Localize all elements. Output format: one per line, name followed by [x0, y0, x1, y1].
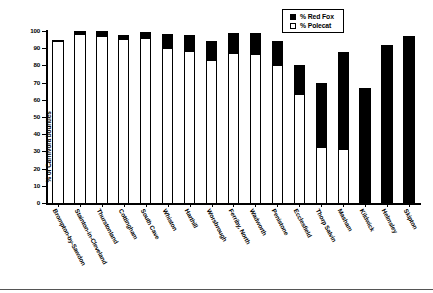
x-axis-label: Penistone: [271, 208, 290, 236]
legend-item-polecat: % Polecat: [290, 21, 334, 30]
bar-column[interactable]: [140, 32, 151, 203]
x-axis-label: Whiston: [161, 208, 178, 232]
x-axis-label: Ecclesfield: [292, 208, 313, 239]
bar-segment-polecat[interactable]: [74, 34, 85, 203]
y-tick-mark: [42, 83, 46, 84]
bar-segment-polecat[interactable]: [140, 38, 151, 203]
x-axis-labels: Brompton-by-SawdonStainton-in-ClevelandT…: [47, 208, 420, 288]
bar-column[interactable]: [118, 35, 129, 203]
bar-slot: [376, 31, 398, 203]
x-tick-mark: [255, 203, 256, 207]
bar-segment-polecat[interactable]: [96, 36, 107, 203]
y-tick-label: 70: [34, 79, 40, 85]
y-tick-mark: [42, 117, 46, 118]
bar-slot: [47, 31, 69, 203]
bar-slot: [223, 31, 245, 203]
bar-column[interactable]: [96, 31, 107, 203]
y-tick-label: 90: [34, 45, 40, 51]
y-tick-mark: [42, 48, 46, 49]
bar-segment-polecat[interactable]: [118, 39, 129, 203]
bar-slot: [398, 31, 420, 203]
x-axis-label: Worsbrough: [205, 208, 228, 243]
bar-column[interactable]: [381, 45, 392, 203]
bar-column[interactable]: [206, 41, 217, 203]
bar-slot: [266, 31, 288, 203]
bar-column[interactable]: [403, 36, 414, 203]
y-tick-label: 30: [34, 148, 40, 154]
y-tick-label: 20: [34, 165, 40, 171]
legend-label-polecat: % Polecat: [300, 22, 331, 29]
y-tick-mark: [42, 169, 46, 170]
y-tick-mark: [42, 100, 46, 101]
bar-segment-polecat[interactable]: [52, 41, 63, 203]
x-tick-mark: [58, 203, 59, 207]
y-tick-mark: [42, 186, 46, 187]
y-tick-mark: [42, 151, 46, 152]
x-axis-label: Skipton: [402, 208, 418, 231]
y-tick-mark: [42, 31, 46, 32]
x-tick-mark: [299, 203, 300, 207]
bar-segment-red-fox[interactable]: [250, 33, 261, 55]
x-axis-label: Kildwick: [358, 208, 375, 233]
bar-segment-polecat[interactable]: [316, 147, 327, 203]
bar-segment-red-fox[interactable]: [206, 41, 217, 60]
bar-segment-red-fox[interactable]: [359, 88, 370, 203]
bar-segment-red-fox[interactable]: [316, 83, 327, 148]
x-tick-mark: [80, 203, 81, 207]
legend-swatch-polecat: [290, 23, 296, 29]
bar-segment-polecat[interactable]: [184, 51, 195, 203]
bar-segment-polecat[interactable]: [272, 65, 283, 203]
y-tick-label: 0: [37, 200, 40, 206]
x-tick-mark: [146, 203, 147, 207]
bar-segment-red-fox[interactable]: [162, 34, 173, 48]
legend-item-red-fox: % Red Fox: [290, 12, 334, 21]
x-axis-label: South Cave: [139, 208, 160, 240]
bar-column[interactable]: [52, 40, 63, 203]
plot-area: 0102030405060708090100: [47, 31, 420, 203]
legend-label-red-fox: % Red Fox: [300, 13, 334, 20]
bar-segment-red-fox[interactable]: [381, 45, 392, 203]
bar-column[interactable]: [294, 65, 305, 203]
bar-column[interactable]: [272, 41, 283, 203]
bar-segment-polecat[interactable]: [294, 94, 305, 203]
y-tick-mark: [42, 134, 46, 135]
bar-slot: [135, 31, 157, 203]
y-tick-label: 80: [34, 62, 40, 68]
bars-layer: [47, 31, 420, 203]
bar-segment-polecat[interactable]: [228, 53, 239, 203]
bar-column[interactable]: [228, 33, 239, 203]
bar-segment-red-fox[interactable]: [184, 35, 195, 50]
bar-column[interactable]: [338, 52, 349, 203]
bar-column[interactable]: [184, 35, 195, 203]
bar-column[interactable]: [74, 31, 85, 203]
y-tick-mark: [42, 65, 46, 66]
bar-segment-red-fox[interactable]: [272, 41, 283, 64]
y-tick-mark: [42, 203, 46, 204]
bar-segment-red-fox[interactable]: [338, 52, 349, 149]
x-tick-mark: [387, 203, 388, 207]
bar-segment-red-fox[interactable]: [294, 65, 305, 93]
bar-slot: [201, 31, 223, 203]
bar-slot: [244, 31, 266, 203]
bar-segment-polecat[interactable]: [338, 149, 349, 203]
bar-slot: [69, 31, 91, 203]
bar-segment-polecat[interactable]: [162, 48, 173, 203]
bar-slot: [91, 31, 113, 203]
bar-segment-polecat[interactable]: [250, 54, 261, 203]
bar-column[interactable]: [250, 33, 261, 203]
bar-column[interactable]: [316, 83, 327, 203]
x-axis-label: Harthill: [183, 208, 198, 229]
y-tick-label: 100: [30, 28, 40, 34]
bar-segment-red-fox[interactable]: [403, 36, 414, 203]
bar-column[interactable]: [162, 34, 173, 203]
x-axis-label: Helmsley: [380, 208, 398, 234]
bar-segment-polecat[interactable]: [206, 60, 217, 203]
bar-segment-red-fox[interactable]: [228, 33, 239, 54]
x-tick-mark: [277, 203, 278, 207]
x-tick-mark: [321, 203, 322, 207]
bar-column[interactable]: [359, 88, 370, 203]
x-axis-label: Wadworth: [249, 208, 268, 237]
carnivora-bounties-chart: % of Carnivora bounties 0102030405060708…: [0, 0, 433, 293]
x-tick-mark: [168, 203, 169, 207]
bar-slot: [288, 31, 310, 203]
